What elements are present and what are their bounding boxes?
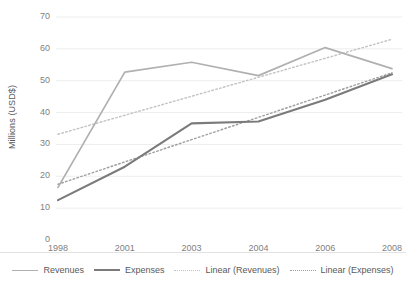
legend-label: Revenues xyxy=(43,265,84,275)
plot-svg xyxy=(0,0,406,252)
legend-item-linear-expenses[interactable]: Linear (Expenses) xyxy=(290,265,394,275)
legend-item-revenues[interactable]: Revenues xyxy=(12,265,84,275)
legend-swatch-icon xyxy=(290,270,316,271)
gridlines xyxy=(56,17,402,208)
series-line-expenses xyxy=(58,74,392,200)
legend-label: Linear (Revenues) xyxy=(205,265,279,275)
plot-area: Millions (USD$) 010203040506070 19982001… xyxy=(0,0,406,252)
legend-swatch-icon xyxy=(94,269,120,271)
legend-swatch-icon xyxy=(12,270,38,271)
trendline-linear-expenses xyxy=(58,73,392,185)
legend-label: Linear (Expenses) xyxy=(321,265,394,275)
legend-item-linear-revenues[interactable]: Linear (Revenues) xyxy=(174,265,279,275)
series-line-revenues xyxy=(58,48,392,188)
legend-label: Expenses xyxy=(125,265,165,275)
line-chart: Millions (USD$) 010203040506070 19982001… xyxy=(0,0,406,286)
legend-swatch-icon xyxy=(174,270,200,271)
data-series-lines xyxy=(58,48,392,201)
chart-legend: RevenuesExpensesLinear (Revenues)Linear … xyxy=(0,252,406,286)
trendlines xyxy=(58,39,392,184)
legend-item-expenses[interactable]: Expenses xyxy=(94,265,165,275)
